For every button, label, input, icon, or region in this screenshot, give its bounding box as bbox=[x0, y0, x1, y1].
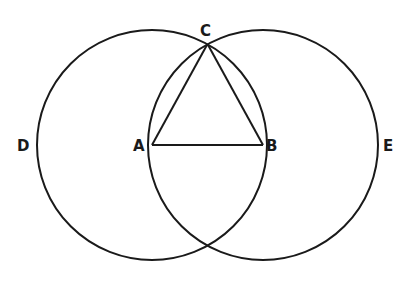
label-B: B bbox=[266, 137, 277, 155]
label-A: A bbox=[133, 137, 145, 155]
label-D: D bbox=[17, 137, 29, 155]
label-E: E bbox=[383, 137, 393, 155]
euclid-diagram: C A B D E bbox=[0, 0, 416, 292]
label-C: C bbox=[200, 22, 211, 40]
